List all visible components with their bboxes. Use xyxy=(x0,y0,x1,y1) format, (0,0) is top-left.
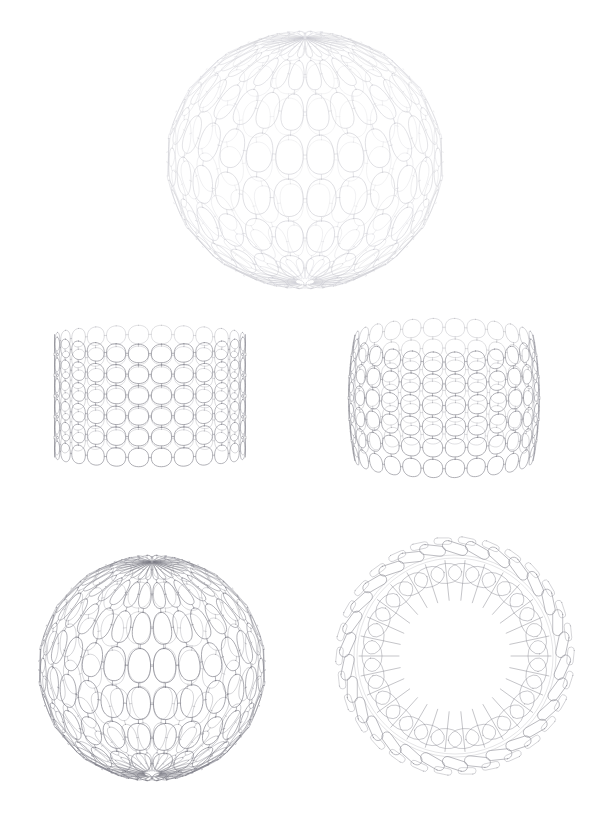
figure-hemispherical-dome-perspective xyxy=(140,10,470,300)
figure-ring-plan-view xyxy=(325,527,587,787)
figure-deep-bowl-perspective xyxy=(22,545,284,795)
figure-cylindrical-barrel-elevation-b xyxy=(314,300,574,500)
figure-cylindrical-barrel-elevation-a xyxy=(20,300,280,500)
